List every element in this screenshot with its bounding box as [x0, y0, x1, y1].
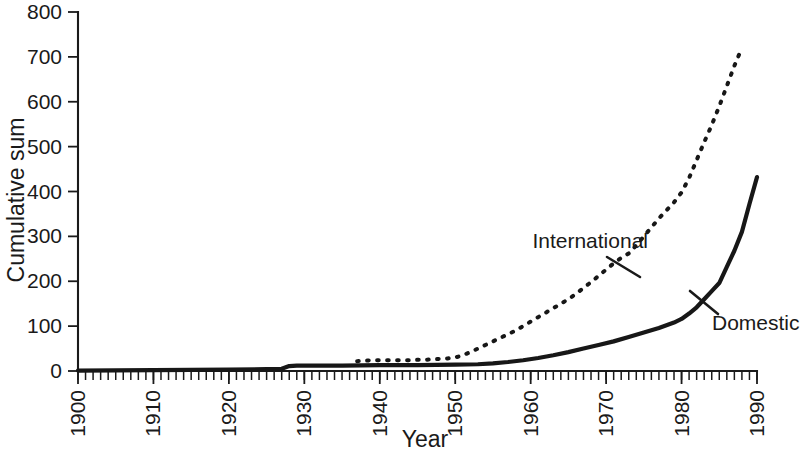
- x-tick-label: 1970: [594, 390, 617, 437]
- series-line-international: [357, 48, 742, 361]
- domestic-label: Domestic: [712, 311, 800, 334]
- y-tick-label: 0: [50, 359, 62, 382]
- y-tick-label: 700: [27, 45, 62, 68]
- x-axis-minor-ticks: [78, 371, 757, 380]
- y-tick-label: 800: [27, 0, 62, 23]
- x-axis-title: Year: [402, 426, 449, 452]
- y-tick-label: 300: [27, 224, 62, 247]
- y-tick-label: 600: [27, 90, 62, 113]
- series-group: [78, 48, 757, 371]
- x-tick-label: 1920: [217, 390, 240, 437]
- chart-canvas: 0100200300400500600700800 Cumulative sum…: [0, 0, 810, 455]
- y-tick-label: 500: [27, 135, 62, 158]
- y-tick-label: 400: [27, 180, 62, 203]
- x-axis-group: 1900191019201930194019501960197019801990…: [66, 371, 768, 452]
- y-tick-label: 200: [27, 269, 62, 292]
- international-label: International: [532, 229, 648, 252]
- x-tick-label: 1930: [292, 390, 315, 437]
- x-tick-label: 1900: [66, 390, 89, 437]
- series-line-domestic: [78, 177, 757, 370]
- annotation-group: International Domestic: [532, 229, 799, 334]
- x-tick-label: 1990: [745, 390, 768, 437]
- x-tick-label: 1960: [519, 390, 542, 437]
- y-axis-tick-labels: 0100200300400500600700800: [27, 0, 62, 382]
- y-axis-title: Cumulative sum: [3, 118, 29, 283]
- y-axis-group: 0100200300400500600700800 Cumulative sum: [3, 0, 78, 382]
- chart-figure: 0100200300400500600700800 Cumulative sum…: [0, 0, 810, 455]
- x-tick-label: 1910: [141, 390, 164, 437]
- y-axis-ticks: [68, 12, 78, 371]
- y-tick-label: 100: [27, 314, 62, 337]
- x-tick-label: 1980: [670, 390, 693, 437]
- x-tick-label: 1940: [368, 390, 391, 437]
